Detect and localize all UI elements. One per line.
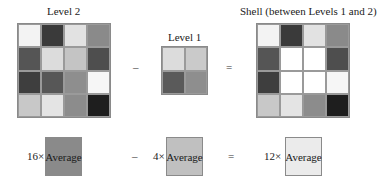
level2-title: Level 2 (47, 5, 80, 17)
term1-average-label: Average (45, 151, 81, 163)
level1-grid (161, 46, 208, 95)
shell-cell-0-2 (303, 24, 326, 47)
term3-average-box: Average (285, 137, 322, 176)
shell-cell-1-2 (303, 47, 326, 70)
term3-multiplier: 12× (264, 150, 281, 162)
level2-cell-2-1 (41, 71, 64, 94)
level1-cell-0-0 (162, 47, 185, 71)
shell-cell-3-3 (326, 94, 349, 117)
shell-cell-1-1 (280, 47, 303, 70)
shell-cell-1-3 (326, 47, 349, 70)
level2-cell-0-0 (18, 24, 41, 47)
shell-grid (256, 23, 350, 118)
shell-cell-0-1 (280, 24, 303, 47)
term2-average-label: Average (166, 151, 202, 163)
level2-cell-1-0 (18, 47, 41, 70)
level2-cell-3-1 (41, 94, 64, 117)
shell-cell-0-0 (257, 24, 280, 47)
shell-cell-2-2 (303, 71, 326, 94)
shell-cell-2-1 (280, 71, 303, 94)
level2-cell-0-3 (87, 24, 110, 47)
term2-multiplier: 4× (153, 150, 165, 162)
level2-cell-0-1 (41, 24, 64, 47)
term1-average-box: Average (45, 137, 82, 176)
shell-cell-2-0 (257, 71, 280, 94)
term1-multiplier: 16× (27, 150, 44, 162)
level2-cell-1-3 (87, 47, 110, 70)
level2-cell-3-0 (18, 94, 41, 117)
level2-cell-3-3 (87, 94, 110, 117)
shell-cell-0-3 (326, 24, 349, 47)
level1-cell-1-0 (162, 71, 185, 95)
level2-cell-2-2 (64, 71, 87, 94)
term2-average-box: Average (166, 137, 203, 176)
shell-cell-3-0 (257, 94, 280, 117)
shell-cell-1-0 (257, 47, 280, 70)
level2-grid (17, 23, 111, 118)
term3-average-label: Average (285, 151, 321, 163)
shell-cell-2-3 (326, 71, 349, 94)
level2-cell-2-0 (18, 71, 41, 94)
level1-cell-1-1 (185, 71, 208, 95)
level1-title: Level 1 (168, 31, 201, 43)
minus-operator: – (133, 61, 139, 73)
minus-operator-bottom: – (132, 150, 138, 162)
shell-cell-3-1 (280, 94, 303, 117)
level2-cell-2-3 (87, 71, 110, 94)
level2-cell-1-2 (64, 47, 87, 70)
shell-title: Shell (between Levels 1 and 2) (240, 5, 377, 17)
level2-cell-3-2 (64, 94, 87, 117)
equals-operator-bottom: = (228, 150, 234, 162)
shell-cell-3-2 (303, 94, 326, 117)
level2-cell-0-2 (64, 24, 87, 47)
equals-operator: = (226, 61, 232, 73)
level2-cell-1-1 (41, 47, 64, 70)
level1-cell-0-1 (185, 47, 208, 71)
